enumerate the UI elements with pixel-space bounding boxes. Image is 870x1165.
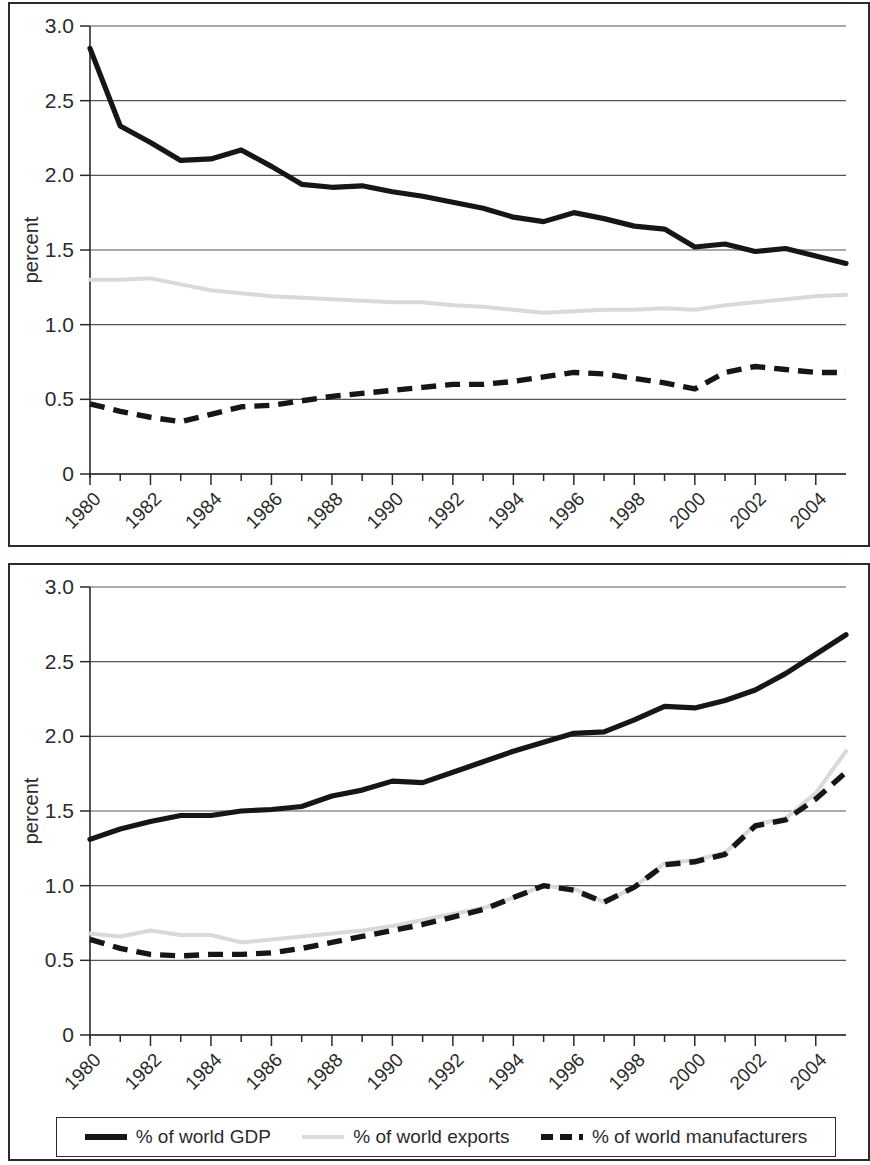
line-chart-top: 3.02.52.01.51.00.50198019821984198619881…	[10, 4, 868, 545]
y-axis-tick-label: 1.5	[45, 238, 74, 261]
legend-swatch-dashed-line-icon	[541, 1134, 583, 1140]
x-axis-tick-label: 1980	[60, 488, 105, 533]
x-axis-tick-label: 1994	[483, 488, 528, 533]
x-axis-tick-label: 1992	[423, 1049, 468, 1094]
series-line-exports	[90, 278, 846, 312]
y-axis-tick-label: 1.0	[45, 313, 74, 336]
y-axis-tick-label: 1.0	[45, 874, 74, 897]
legend-item-exports: % of world exports	[302, 1126, 509, 1148]
x-axis-tick-label: 1996	[544, 1049, 589, 1094]
series-line-manufacturers	[90, 366, 846, 421]
y-axis-tick-label: 3.0	[45, 14, 74, 37]
y-axis-tick-label: 2.0	[45, 163, 74, 186]
y-axis-title: percent	[20, 777, 42, 844]
series-line-exports	[90, 751, 846, 942]
y-axis-tick-label: 2.5	[45, 89, 74, 112]
x-axis-tick-label: 1990	[362, 1049, 407, 1094]
x-axis-tick-label: 1980	[60, 1049, 105, 1094]
x-axis-tick-label: 2002	[725, 488, 770, 533]
x-axis-tick-label: 1992	[423, 488, 468, 533]
x-axis-tick-label: 1998	[604, 1049, 649, 1094]
x-axis-tick-label: 2000	[665, 488, 710, 533]
x-axis-tick-label: 1984	[181, 488, 226, 533]
x-axis-tick-label: 2002	[725, 1049, 770, 1094]
line-chart-bottom: 3.02.52.01.51.00.50198019821984198619881…	[10, 565, 868, 1159]
series-line-manufacturers	[90, 772, 846, 956]
x-axis-tick-label: 1982	[121, 1049, 166, 1094]
legend-label-gdp: % of world GDP	[136, 1126, 271, 1148]
legend-label-manufacturers: % of world manufacturers	[592, 1126, 807, 1148]
legend-swatch-light-line-icon	[302, 1135, 344, 1139]
x-axis-tick-label: 1986	[242, 488, 287, 533]
y-axis-title: percent	[20, 216, 42, 283]
x-axis-tick-label: 1984	[181, 1049, 226, 1094]
x-axis-tick-label: 1996	[544, 488, 589, 533]
y-axis-tick-label: 0.5	[45, 387, 74, 410]
chart-panel-bottom: 3.02.52.01.51.00.50198019821984198619881…	[8, 563, 870, 1161]
y-axis-tick-label: 2.0	[45, 724, 74, 747]
x-axis-tick-label: 1998	[604, 488, 649, 533]
x-axis-tick-label: 1988	[302, 1049, 347, 1094]
x-axis-tick-label: 1988	[302, 488, 347, 533]
y-axis-tick-label: 0	[62, 462, 74, 485]
x-axis-tick-label: 1982	[121, 488, 166, 533]
series-line-gdp	[90, 48, 846, 263]
x-axis-tick-label: 2004	[786, 1049, 831, 1094]
legend-swatch-solid-line-icon	[85, 1134, 127, 1140]
chart-legend: % of world GDP % of world exports % of w…	[56, 1117, 836, 1157]
y-axis-tick-label: 2.5	[45, 650, 74, 673]
x-axis-tick-label: 1990	[362, 488, 407, 533]
chart-panel-top: 3.02.52.01.51.00.50198019821984198619881…	[8, 2, 870, 547]
legend-label-exports: % of world exports	[353, 1126, 509, 1148]
y-axis-tick-label: 0	[62, 1023, 74, 1046]
legend-item-manufacturers: % of world manufacturers	[541, 1126, 807, 1148]
x-axis-tick-label: 1994	[483, 1049, 528, 1094]
x-axis-tick-label: 2000	[665, 1049, 710, 1094]
y-axis-tick-label: 1.5	[45, 799, 74, 822]
y-axis-tick-label: 0.5	[45, 948, 74, 971]
series-line-gdp	[90, 635, 846, 840]
x-axis-tick-label: 1986	[242, 1049, 287, 1094]
legend-item-gdp: % of world GDP	[85, 1126, 271, 1148]
x-axis-tick-label: 2004	[786, 488, 831, 533]
y-axis-tick-label: 3.0	[45, 575, 74, 598]
